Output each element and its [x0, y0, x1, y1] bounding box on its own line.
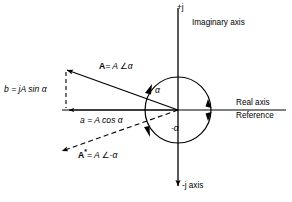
vector-a-conjugate-label: A*= A ∠-α	[78, 148, 117, 160]
vector-a-angle: α	[128, 61, 133, 71]
axis-label-negative-imaginary: -j axis	[182, 182, 203, 191]
angle-label-negative: -α	[171, 124, 179, 133]
imaginary-component-label: b = jA sin α	[4, 85, 47, 94]
phasor-diagram-figure: +j Imaginary axis -j axis Real axis Refe…	[0, 0, 292, 202]
angle-arc-arrowhead-positive-icon	[145, 84, 152, 95]
axis-label-positive-imaginary: +j	[177, 4, 184, 13]
axis-label-imaginary: Imaginary axis	[192, 19, 245, 28]
real-component-label: a = A cos α	[80, 116, 123, 125]
axis-label-real: Real axis	[236, 99, 270, 108]
angle-glyph-conjugate-icon: ∠	[102, 150, 110, 160]
angle-glyph-icon: ∠	[120, 61, 128, 71]
vector-a-conjugate-angle: -α	[110, 150, 118, 160]
vector-a-label: A= A ∠α	[99, 62, 133, 71]
vector-a-conjugate-magnitude: = A	[87, 150, 102, 160]
angle-label-positive: α	[155, 86, 160, 95]
angle-arc-arrowhead-negative-icon	[144, 126, 150, 137]
vector-a-magnitude: = A	[105, 61, 120, 71]
axis-label-reference: Reference	[236, 112, 274, 121]
vector-a-line	[67, 70, 178, 110]
